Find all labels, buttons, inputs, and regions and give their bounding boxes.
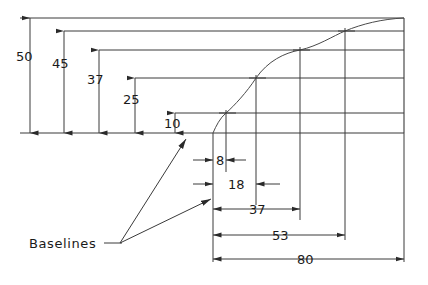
dim-label-25: 25	[123, 92, 140, 107]
dim-label-37h: 37	[249, 202, 266, 217]
engineering-drawing: 50 45 37 25 10 8 18 37 53 80 Baselines	[0, 0, 428, 285]
dim-label-80: 80	[297, 252, 314, 267]
dim-label-53: 53	[272, 228, 289, 243]
profile-curve	[213, 18, 404, 133]
drawing-canvas: 50 45 37 25 10 8 18 37 53 80 Baselines	[0, 0, 428, 285]
dim-label-45: 45	[52, 56, 69, 71]
dim-label-37: 37	[87, 72, 104, 87]
dim-label-50: 50	[16, 49, 33, 64]
baselines-label: Baselines	[29, 236, 96, 251]
dim-label-18: 18	[228, 177, 245, 192]
dim-label-8: 8	[216, 153, 224, 168]
dim-label-10: 10	[164, 116, 181, 131]
